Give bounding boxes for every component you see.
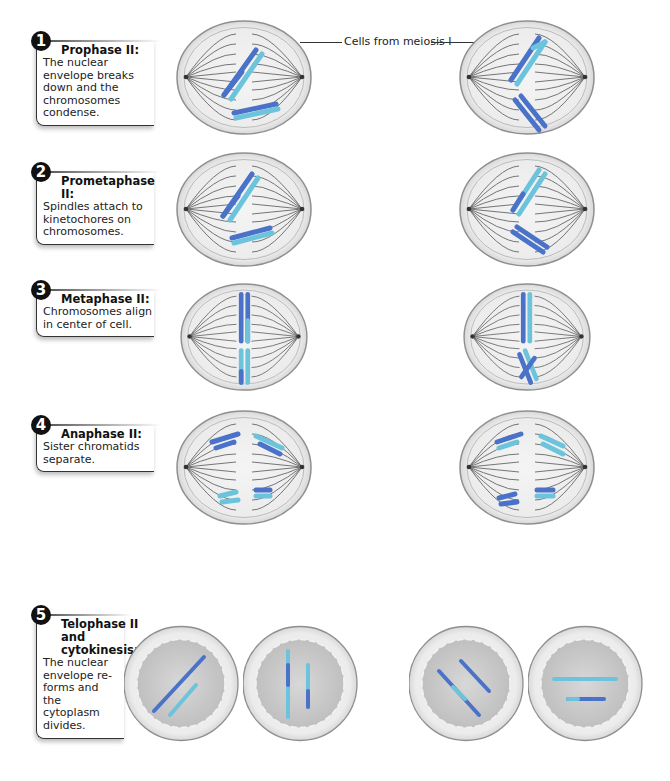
cell-prophase-left — [176, 20, 312, 135]
step-number-badge: 5 — [31, 605, 51, 625]
step-number-badge: 1 — [31, 31, 51, 51]
cell-telophase-1 — [124, 625, 239, 743]
step-description: The nuclear envelope re-forms and the cy… — [43, 657, 119, 733]
cell-telophase-3 — [409, 625, 524, 743]
step-description: Sister chromatids separate. — [43, 441, 143, 466]
cell-telophase-2 — [243, 625, 358, 743]
cell-anaphase-left — [176, 410, 312, 525]
cell-metaphase-left — [176, 283, 312, 391]
step-number-badge: 3 — [31, 280, 51, 300]
cell-telophase-4 — [528, 625, 643, 743]
step-2-label: 2 Prometaphase II: Spindles attach to ki… — [36, 171, 154, 245]
step-3-label: 3 Metaphase II: Chromosomes align in cen… — [36, 289, 154, 337]
step-number-badge: 2 — [31, 162, 51, 182]
step-number-badge: 4 — [31, 415, 51, 435]
step-description: Chromosomes align in center of cell. — [43, 306, 153, 331]
step-description: Spindles attach to kinetochores on chrom… — [43, 201, 143, 239]
step-1-label: 1 Prophase II: The nuclear envelope brea… — [36, 40, 154, 126]
cell-prometaphase-right — [459, 152, 595, 267]
cell-metaphase-right — [459, 283, 595, 391]
cell-prometaphase-left — [176, 152, 312, 267]
step-4-label: 4 Anaphase II: Sister chromatids separat… — [36, 424, 154, 472]
step-5-label: 5 Telophase II and cytokinesis: The nucl… — [36, 614, 124, 739]
step-description: The nuclear envelope breaks down and the… — [43, 57, 143, 120]
cell-anaphase-right — [459, 410, 595, 525]
step-title: Prometaphase II: — [61, 175, 150, 201]
cell-prophase-right — [459, 20, 595, 135]
